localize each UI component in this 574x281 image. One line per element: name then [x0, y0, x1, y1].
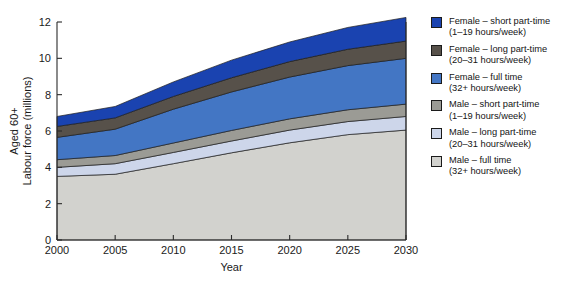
legend-swatch-icon [431, 73, 442, 84]
legend-item-title: Male – long part-time [449, 127, 536, 138]
x-tick-label: 2020 [277, 244, 301, 256]
legend-swatch-icon [431, 156, 442, 167]
legend-item-female-full-time[interactable]: Female – full time(32+ hours/week) [431, 72, 574, 95]
x-tick-label: 2010 [161, 244, 185, 256]
y-tick-label: 4 [45, 161, 51, 173]
x-tick-label: 2025 [336, 244, 360, 256]
y-tick-label: 10 [39, 52, 51, 64]
x-axis-title: Year [220, 261, 243, 273]
legend-item-sublabel: (1–19 hours/week) [449, 111, 539, 122]
legend-swatch-icon [431, 100, 442, 111]
x-tick-label: 2015 [219, 244, 243, 256]
legend-item-sublabel: (20–31 hours/week) [449, 55, 547, 66]
legend-item-label: Female – full time(32+ hours/week) [449, 72, 522, 95]
legend-item-sublabel: (32+ hours/week) [449, 83, 522, 94]
legend-item-title: Female – short part-time [449, 16, 550, 27]
y-tick-label: 2 [45, 198, 51, 210]
legend-item-male-short-part-time[interactable]: Male – short part-time(1–19 hours/week) [431, 99, 574, 122]
legend-swatch-icon [431, 128, 442, 139]
legend-item-female-long-part-time[interactable]: Female – long part-time(20–31 hours/week… [431, 44, 574, 67]
y-tick-label: 12 [39, 16, 51, 28]
legend-item-sublabel: (20–31 hours/week) [449, 139, 536, 150]
legend-swatch-icon [431, 45, 442, 56]
legend-item-title: Male – full time [449, 155, 521, 166]
legend-item-female-short-part-time[interactable]: Female – short part-time(1–19 hours/week… [431, 16, 574, 39]
legend-item-label: Female – long part-time(20–31 hours/week… [449, 44, 547, 67]
legend-item-male-full-time[interactable]: Male – full time(32+ hours/week) [431, 155, 574, 178]
legend-item-label: Male – full time(32+ hours/week) [449, 155, 521, 178]
chart-legend: Female – short part-time(1–19 hours/week… [431, 16, 574, 183]
legend-item-label: Male – long part-time(20–31 hours/week) [449, 127, 536, 150]
x-tick-label: 2005 [103, 244, 127, 256]
legend-item-label: Female – short part-time(1–19 hours/week… [449, 16, 550, 39]
y-tick-label: 8 [45, 89, 51, 101]
x-tick-label: 2000 [45, 244, 69, 256]
figure-root: 0246810122000200520102015202020252030Yea… [0, 0, 574, 281]
legend-item-title: Female – full time [449, 72, 522, 83]
legend-swatch-icon [431, 17, 442, 28]
y-axis-title-line-1: Aged 60+ [8, 107, 20, 154]
legend-item-title: Female – long part-time [449, 44, 547, 55]
y-tick-label: 6 [45, 125, 51, 137]
legend-item-male-long-part-time[interactable]: Male – long part-time(20–31 hours/week) [431, 127, 574, 150]
chart-area-bands [57, 17, 406, 240]
x-tick-label: 2030 [394, 244, 418, 256]
legend-item-title: Male – short part-time [449, 99, 539, 110]
legend-item-label: Male – short part-time(1–19 hours/week) [449, 99, 539, 122]
y-axis-title-line-2: Labour force (millions) [21, 77, 33, 186]
legend-item-sublabel: (1–19 hours/week) [449, 27, 550, 38]
legend-item-sublabel: (32+ hours/week) [449, 166, 521, 177]
